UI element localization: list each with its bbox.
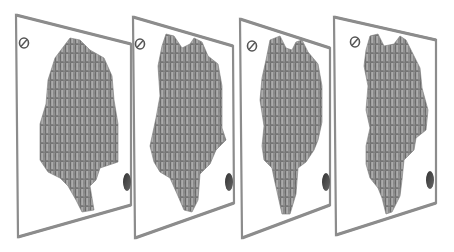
- top-marker-icon: [20, 38, 29, 48]
- panel-3: [240, 19, 330, 238]
- panel-1: [16, 15, 131, 237]
- figure-canvas: [0, 0, 454, 252]
- bottom-marker-icon: [322, 173, 330, 191]
- bottom-marker-icon: [426, 171, 434, 189]
- panel-4: [334, 17, 436, 235]
- top-marker-icon: [248, 41, 257, 51]
- panel-2: [133, 17, 234, 238]
- top-marker-icon: [351, 37, 360, 47]
- bottom-marker-icon: [225, 173, 233, 191]
- top-marker-icon: [136, 39, 145, 49]
- bottom-marker-icon: [123, 173, 131, 191]
